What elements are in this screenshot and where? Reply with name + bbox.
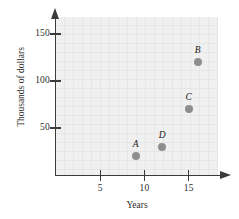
y-axis-tick-label: 50 bbox=[22, 122, 50, 132]
x-axis-arrow-icon bbox=[220, 171, 231, 179]
x-axis-tick bbox=[144, 170, 145, 181]
y-axis-tick-label: 150 bbox=[22, 28, 50, 38]
x-axis-line bbox=[55, 175, 221, 176]
data-point-label-a: A bbox=[126, 139, 146, 149]
data-point-b bbox=[194, 58, 202, 66]
x-axis-tick-label: 5 bbox=[88, 183, 112, 193]
y-axis-tick bbox=[50, 80, 61, 81]
data-point-label-b: B bbox=[188, 45, 208, 55]
x-axis-title: Years bbox=[56, 200, 218, 210]
y-axis-title: Thousands of dollars bbox=[16, 22, 26, 152]
data-point-label-c: C bbox=[179, 92, 199, 102]
x-axis-tick bbox=[188, 170, 189, 181]
data-point-a bbox=[132, 152, 140, 160]
y-axis-arrow-icon bbox=[51, 8, 59, 19]
data-point-label-d: D bbox=[152, 130, 172, 140]
x-axis-tick-label: 15 bbox=[177, 183, 201, 193]
y-axis-line bbox=[55, 17, 56, 176]
x-axis-tick-label: 10 bbox=[133, 183, 157, 193]
y-axis-tick bbox=[50, 33, 61, 34]
scatter-plot-figure: 50100150 51015 Thousands of dollars Year… bbox=[0, 0, 239, 219]
y-axis-tick-label: 100 bbox=[22, 75, 50, 85]
x-axis-tick bbox=[100, 170, 101, 181]
y-axis-tick bbox=[50, 127, 61, 128]
data-point-d bbox=[158, 143, 166, 151]
data-point-c bbox=[185, 105, 193, 113]
